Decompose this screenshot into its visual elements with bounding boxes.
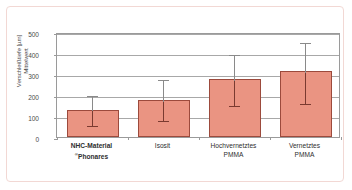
- y-tick-label: 200: [0, 94, 39, 101]
- error-bar-upper: [163, 80, 164, 102]
- error-bar-upper: [234, 55, 235, 80]
- x-axis-label-line2: PMMA: [269, 150, 340, 159]
- y-tick-mark: [54, 55, 57, 56]
- error-cap-lower: [300, 104, 311, 105]
- error-cap-lower: [87, 126, 98, 127]
- x-axis-label-line1: NHC-Material: [56, 141, 127, 150]
- y-tick-label: 0: [0, 136, 39, 143]
- x-tick-mark: [128, 137, 129, 140]
- y-tick-label: 300: [0, 73, 39, 80]
- error-bar-upper: [92, 96, 93, 111]
- y-tick-label: 500: [0, 31, 39, 38]
- error-bar-upper: [305, 43, 306, 73]
- x-tick-mark: [341, 137, 342, 140]
- x-tick-mark: [57, 137, 58, 140]
- x-axis-label-line1: Vernetztes: [269, 141, 340, 150]
- y-tick-mark: [54, 76, 57, 77]
- registered-trademark-icon: ®: [75, 152, 78, 157]
- error-cap-lower: [229, 106, 240, 107]
- error-bar-lower: [163, 102, 164, 121]
- x-axis-label: Isosit: [127, 141, 198, 150]
- error-bar-lower: [92, 111, 93, 125]
- bar-group: [209, 34, 261, 137]
- error-bar-lower: [305, 73, 306, 104]
- error-cap-lower: [158, 121, 169, 122]
- x-axis-label: VernetztesPMMA: [269, 141, 340, 159]
- x-axis-label-line2: ®Phonares: [56, 150, 127, 161]
- x-axis-label-line1: Isosit: [127, 141, 198, 150]
- error-cap-upper: [87, 96, 98, 97]
- y-tick-label: 100: [0, 115, 39, 122]
- bar-group: [138, 34, 190, 137]
- error-cap-upper: [158, 80, 169, 81]
- x-axis-label: NHC-Material®Phonares: [56, 141, 127, 161]
- x-tick-mark: [199, 137, 200, 140]
- plot-area: 0100200300400500: [56, 33, 340, 138]
- y-tick-mark: [54, 118, 57, 119]
- y-tick-mark: [54, 97, 57, 98]
- x-axis-label: HochvernetztesPMMA: [198, 141, 269, 159]
- y-tick-mark: [54, 34, 57, 35]
- error-cap-upper: [300, 43, 311, 44]
- x-axis-label-line2: PMMA: [198, 150, 269, 159]
- y-tick-label: 400: [0, 52, 39, 59]
- error-bar-lower: [234, 81, 235, 107]
- bar-group: [280, 34, 332, 137]
- x-axis-labels: NHC-Material®PhonaresIsositHochvernetzte…: [56, 141, 340, 171]
- bar-chart: Verschleißtiefe [µm] Mittelwert 01002003…: [0, 0, 352, 190]
- x-axis-label-line1: Hochvernetztes: [198, 141, 269, 150]
- error-cap-upper: [229, 55, 240, 56]
- bar-group: [67, 34, 119, 137]
- x-tick-mark: [270, 137, 271, 140]
